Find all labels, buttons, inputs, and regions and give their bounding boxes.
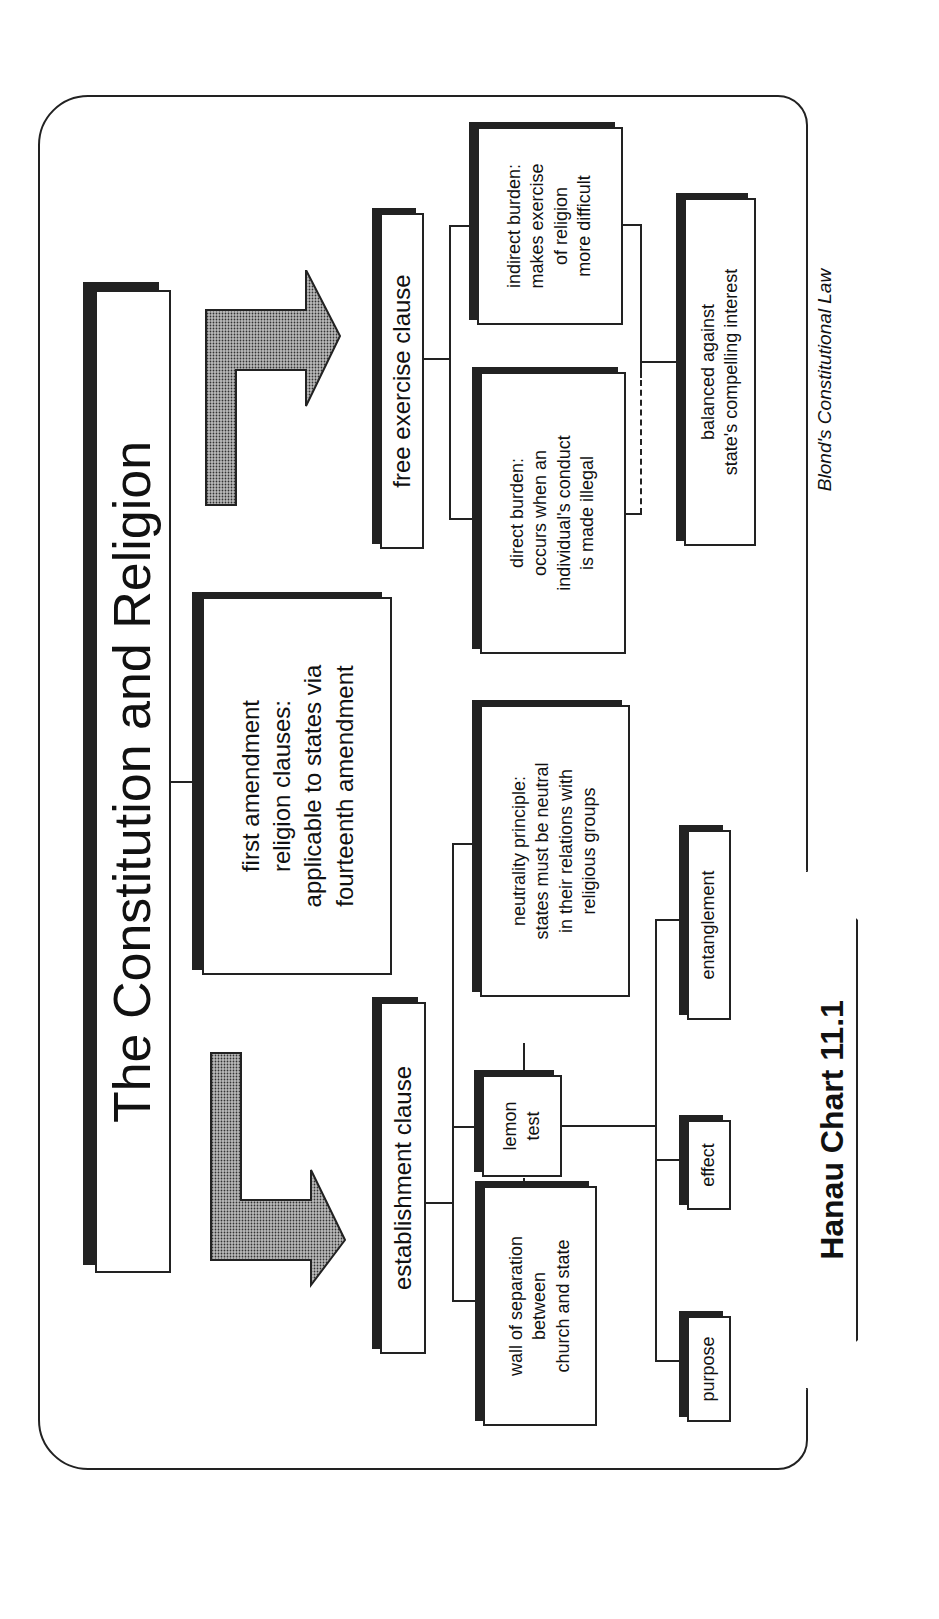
effect-node: effect — [687, 1120, 731, 1210]
wall-of-separation-node: wall of separation between church and st… — [483, 1186, 597, 1426]
connector — [640, 361, 676, 363]
entanglement-node: entanglement — [687, 830, 731, 1020]
connector — [655, 1360, 683, 1362]
connector — [452, 1300, 482, 1302]
connector — [449, 225, 476, 227]
connector — [452, 843, 478, 845]
root-node: first amendment religion clauses: applic… — [202, 597, 392, 975]
purpose-node: purpose — [687, 1316, 731, 1422]
source-caption: Blond's Constitutional Law — [805, 210, 845, 550]
establishment-node: establishment clause — [380, 1002, 426, 1354]
connector — [640, 224, 642, 378]
connector — [523, 1043, 525, 1075]
connector — [452, 1126, 482, 1128]
free-exercise-node: free exercise clause — [380, 213, 424, 549]
connector — [655, 1159, 681, 1161]
connector — [426, 1202, 454, 1204]
connector — [655, 919, 681, 921]
indirect-burden-node: indirect burden: makes exercise of relig… — [477, 127, 623, 325]
connector — [623, 224, 641, 226]
connector — [452, 843, 454, 1301]
connector — [424, 358, 450, 360]
connector — [562, 1125, 657, 1127]
page-title: The Constitution and Religion — [95, 290, 171, 1273]
l-arrow-icon — [205, 1045, 355, 1290]
neutrality-node: neutrality principle: states must be neu… — [480, 705, 630, 997]
direct-burden-node: direct burden: occurs when an individual… — [480, 372, 626, 654]
l-arrow-icon — [200, 270, 350, 515]
connector — [655, 919, 657, 1361]
lemon-test-node: lemon test — [482, 1075, 562, 1177]
connector — [449, 518, 479, 520]
connector — [449, 225, 451, 519]
connector — [626, 513, 642, 515]
tab-label: Hanau Chart 11.1 — [808, 880, 858, 1380]
balancing-node: balanced against state's compelling inte… — [684, 198, 756, 546]
connector — [170, 781, 202, 783]
dashed-connector — [640, 380, 642, 514]
